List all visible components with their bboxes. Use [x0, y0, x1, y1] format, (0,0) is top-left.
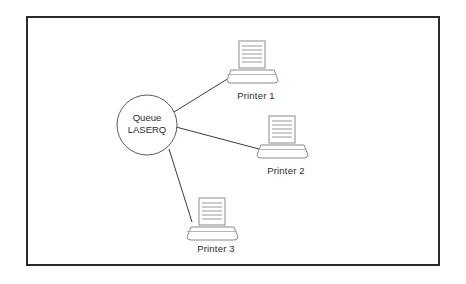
printer-2-body [257, 145, 308, 158]
printer-3-icon[interactable] [187, 198, 238, 240]
link-queue-printer-1[interactable] [174, 78, 229, 112]
printer-1-label: Printer 1 [228, 90, 284, 101]
printer-1-icon[interactable] [227, 41, 278, 83]
printer-3-body [187, 227, 238, 240]
printer-2-icon[interactable] [257, 116, 308, 158]
queue-label-line-2: LASERQ [117, 124, 177, 136]
diagram-graphics [0, 0, 466, 284]
link-queue-printer-3[interactable] [169, 149, 192, 222]
printer-1-body [227, 70, 278, 83]
diagram-canvas: Queue LASERQ Printer 1 Printer 2 Printer… [0, 0, 466, 284]
printer-2-label: Printer 2 [258, 165, 314, 176]
queue-node-label: Queue LASERQ [117, 112, 177, 135]
printer-3-label: Printer 3 [188, 243, 244, 254]
queue-label-line-1: Queue [117, 112, 177, 124]
link-queue-printer-2[interactable] [176, 127, 259, 149]
